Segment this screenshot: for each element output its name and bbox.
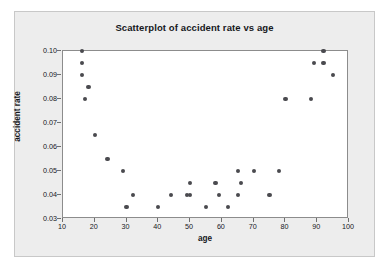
x-axis-tick-label: 90 xyxy=(301,222,331,231)
data-point xyxy=(121,169,125,173)
x-axis-tick-mark xyxy=(62,218,63,222)
x-axis-tick-label: 100 xyxy=(333,222,363,231)
data-point xyxy=(267,193,271,197)
x-axis-tick-mark xyxy=(316,218,317,222)
x-axis-tick-mark xyxy=(157,218,158,222)
data-point xyxy=(309,97,313,101)
x-axis-tick-label: 40 xyxy=(142,222,172,231)
data-point xyxy=(236,169,240,173)
plot-area xyxy=(62,50,348,218)
y-axis-tick-mark xyxy=(57,98,61,99)
data-point xyxy=(252,169,256,173)
y-axis-tick-mark xyxy=(57,50,61,51)
x-axis-tick-mark xyxy=(94,218,95,222)
y-axis-tick-label: 0.05 xyxy=(31,166,57,175)
data-point xyxy=(277,169,281,173)
x-axis-title: age xyxy=(62,234,348,243)
data-point xyxy=(204,205,208,209)
data-points-layer xyxy=(63,51,347,217)
x-axis-tick-label: 30 xyxy=(111,222,141,231)
data-point xyxy=(93,133,97,137)
data-point xyxy=(239,181,243,185)
data-point xyxy=(321,49,325,53)
scatterplot-figure: Scatterplot of accident rate vs age 0.03… xyxy=(0,0,389,268)
x-axis-tick-mark xyxy=(189,218,190,222)
chart-title: Scatterplot of accident rate vs age xyxy=(0,22,389,33)
x-axis-tick-labels: 102030405060708090100 xyxy=(62,222,348,234)
data-point xyxy=(236,193,240,197)
data-point xyxy=(312,61,316,65)
y-axis-title: accident rate xyxy=(13,72,22,162)
data-point xyxy=(331,73,335,77)
data-point xyxy=(283,97,287,101)
data-point xyxy=(188,193,192,197)
y-axis-tick-label: 0.06 xyxy=(31,142,57,151)
y-axis-tick-mark xyxy=(57,74,61,75)
data-point xyxy=(124,205,128,209)
y-axis-tick-labels: 0.030.040.050.060.070.080.090.10 xyxy=(29,50,57,218)
y-axis-tick-mark xyxy=(57,146,61,147)
x-axis-tick-label: 20 xyxy=(79,222,109,231)
y-axis-tick-label: 0.07 xyxy=(31,118,57,127)
data-point xyxy=(156,205,160,209)
data-point xyxy=(80,61,84,65)
x-axis-tick-label: 50 xyxy=(174,222,204,231)
data-point xyxy=(131,193,135,197)
x-axis-tick-mark xyxy=(221,218,222,222)
data-point xyxy=(321,61,325,65)
y-axis-tick-label: 0.10 xyxy=(31,46,57,55)
y-axis-tick-mark xyxy=(57,194,61,195)
x-axis-tick-label: 10 xyxy=(47,222,77,231)
data-point xyxy=(80,73,84,77)
data-point xyxy=(83,97,87,101)
data-point xyxy=(213,181,217,185)
x-axis-tick-label: 70 xyxy=(238,222,268,231)
data-point xyxy=(169,193,173,197)
data-point xyxy=(226,205,230,209)
x-axis-tick-label: 60 xyxy=(206,222,236,231)
x-axis-tick-mark xyxy=(253,218,254,222)
y-axis-tick-mark xyxy=(57,170,61,171)
data-point xyxy=(217,193,221,197)
x-axis-tick-mark xyxy=(126,218,127,222)
y-axis-tick-label: 0.09 xyxy=(31,70,57,79)
x-axis-tick-mark xyxy=(284,218,285,222)
y-axis-tick-label: 0.04 xyxy=(31,190,57,199)
y-axis-tick-mark xyxy=(57,218,61,219)
x-axis-tick-label: 80 xyxy=(269,222,299,231)
data-point xyxy=(188,181,192,185)
data-point xyxy=(80,49,84,53)
y-axis-tick-label: 0.08 xyxy=(31,94,57,103)
data-point xyxy=(105,157,109,161)
data-point xyxy=(86,85,90,89)
x-axis-tick-mark xyxy=(348,218,349,222)
y-axis-tick-mark xyxy=(57,122,61,123)
